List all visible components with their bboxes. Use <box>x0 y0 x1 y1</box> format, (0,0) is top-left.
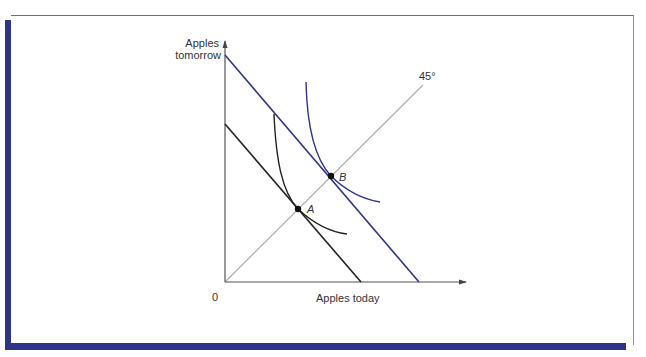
diagonal-label: 45° <box>419 70 436 82</box>
y-axis-label-line2: tomorrow <box>175 49 221 61</box>
origin-label: 0 <box>212 291 218 303</box>
intertemporal-choice-diagram: Apples tomorrow Apples today 0 45° A B <box>0 0 646 357</box>
budget-line-high <box>225 55 419 282</box>
indifference-curve-high <box>306 82 380 202</box>
point-b-label: B <box>339 171 346 183</box>
point-a-marker <box>295 206 301 212</box>
x-axis-label: Apples today <box>316 292 380 304</box>
point-a-label: A <box>306 203 314 215</box>
point-b-marker <box>328 173 334 179</box>
y-axis-label-line1: Apples <box>185 37 219 49</box>
